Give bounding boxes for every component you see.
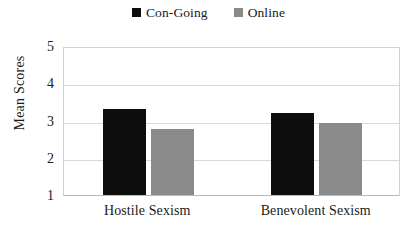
y-axis-tick-label: 1 [8, 189, 54, 203]
y-axis-tick-label: 2 [8, 152, 54, 166]
chart-legend: Con-Going Online [0, 6, 417, 19]
y-axis-tick-label: 5 [8, 40, 54, 54]
x-axis-tick-label: Benevolent Sexism [232, 203, 401, 218]
bar [271, 113, 314, 195]
bar [319, 123, 362, 195]
legend-swatch-con-going [132, 8, 141, 17]
plot-area [63, 47, 400, 196]
legend-label-online: Online [248, 6, 285, 19]
bar-chart: Con-Going Online Mean Scores 54321 Hosti… [0, 0, 417, 237]
legend-swatch-online [234, 8, 243, 17]
legend-label-con-going: Con-Going [146, 6, 208, 19]
bars-group [64, 48, 399, 195]
bar [103, 109, 146, 195]
legend-item-con-going: Con-Going [132, 6, 208, 19]
bar [151, 129, 194, 195]
y-axis-tick-label: 3 [8, 115, 54, 129]
x-axis-tick-label: Hostile Sexism [63, 203, 232, 218]
y-axis-tick-label: 4 [8, 77, 54, 91]
legend-item-online: Online [234, 6, 285, 19]
